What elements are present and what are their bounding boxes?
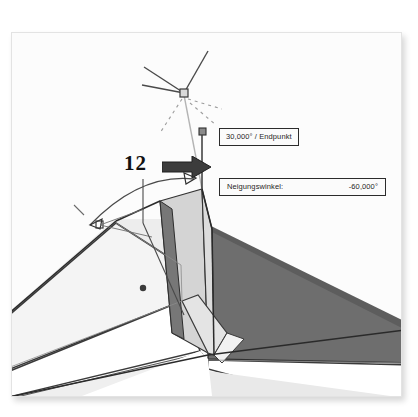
tooltip-angle-label: Neigungswinkel: bbox=[227, 183, 283, 191]
tooltip-endpoint-text: 30,000° / Endpunkt bbox=[226, 132, 292, 141]
tooltip-angle-value: -60,000° bbox=[339, 183, 378, 191]
tooltip-endpoint: 30,000° / Endpunkt bbox=[219, 128, 299, 146]
step-number-label: 12 bbox=[124, 153, 147, 174]
endpoint-square-marker bbox=[199, 128, 206, 135]
cad-image-frame: 30,000° / Endpunkt Neigungswinkel: -60,0… bbox=[11, 32, 402, 397]
cad-drawing-canvas: 30,000° / Endpunkt Neigungswinkel: -60,0… bbox=[12, 33, 401, 396]
tooltip-inclination-angle: Neigungswinkel: -60,000° bbox=[219, 178, 386, 196]
block-arrow-right-icon bbox=[162, 156, 212, 178]
cad-geometry bbox=[12, 33, 401, 396]
screenshot-root: 30,000° / Endpunkt Neigungswinkel: -60,0… bbox=[0, 0, 418, 417]
